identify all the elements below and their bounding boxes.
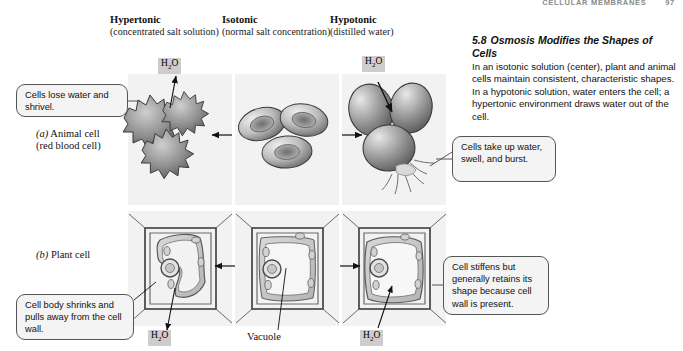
column-subtitle-hypertonic: (concentrated salt solution): [110, 26, 220, 38]
callout-cell-pulls-away: Cell body shrinks and pulls away from th…: [16, 294, 134, 340]
row-marker-b: (b): [36, 249, 48, 260]
column-heading-hypotonic: Hypotonic (distilled water): [330, 14, 440, 37]
panel-animal-hypertonic: [128, 74, 232, 205]
callout-cells-shrivel: Cells lose water and shrivel.: [16, 84, 128, 117]
column-title-hypotonic: Hypotonic: [330, 14, 440, 26]
column-subtitle-hypotonic: (distilled water): [330, 26, 440, 38]
column-title-isotonic: Isotonic: [222, 14, 332, 26]
row-label-animal: (a) Animal cell (red blood cell): [36, 128, 128, 152]
row-label-animal-text: Animal cell: [50, 128, 99, 139]
row-marker-a: (a): [36, 128, 48, 139]
panel-plant-hypotonic: [342, 211, 446, 326]
figure-number: 5.8: [472, 34, 487, 46]
row-sublabel-animal: (red blood cell): [36, 140, 128, 152]
row-label-plant: (b) Plant cell: [36, 249, 128, 261]
row-label-plant-text: Plant cell: [51, 249, 90, 260]
h2o-tag-animal-hypertonic: H2O: [158, 58, 181, 74]
panel-animal-hypotonic: [342, 74, 446, 205]
figure-caption: 5.8Osmosis Modifies the Shapes of Cells …: [472, 34, 680, 123]
vacuole-label: Vacuole: [247, 331, 281, 342]
column-heading-isotonic: Isotonic (normal salt concentration): [222, 14, 332, 37]
h2o-tag-animal-hypotonic: H2O: [362, 56, 385, 72]
figure-osmosis-cell-shapes: CELLULAR MEMBRANES 97 Hypertonic (concen…: [0, 0, 683, 351]
column-title-hypertonic: Hypertonic: [110, 14, 220, 26]
running-head: CELLULAR MEMBRANES 97: [542, 0, 675, 7]
callout-cells-burst: Cells take up water, swell, and burst.: [452, 136, 556, 182]
page-number: 97: [665, 0, 675, 7]
column-heading-hypertonic: Hypertonic (concentrated salt solution): [110, 14, 220, 37]
panel-plant-isotonic: [235, 211, 339, 326]
h2o-tag-plant-hypertonic: H2O: [148, 330, 171, 346]
running-head-title: CELLULAR MEMBRANES: [542, 0, 646, 7]
column-subtitle-isotonic: (normal salt concentration): [222, 26, 332, 38]
panel-plant-hypertonic: [128, 211, 232, 326]
h2o-tag-plant-hypotonic: H2O: [360, 330, 383, 346]
panel-animal-isotonic: [235, 74, 339, 205]
figure-caption-body: In an isotonic solution (center), plant …: [472, 61, 680, 123]
callout-cell-stiffens: Cell stiffens but generally retains its …: [443, 256, 549, 315]
figure-title: Osmosis Modifies the Shapes of Cells: [472, 34, 652, 59]
figure-caption-title: 5.8Osmosis Modifies the Shapes of Cells: [472, 34, 680, 60]
